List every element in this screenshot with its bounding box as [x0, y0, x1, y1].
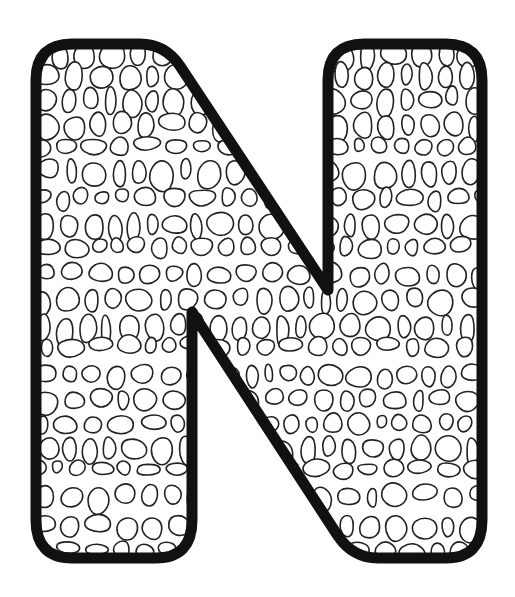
scale-cell	[118, 267, 134, 283]
scale-cell	[41, 339, 52, 356]
scale-cell	[89, 337, 113, 350]
scale-cell	[333, 463, 353, 479]
scale-cell	[283, 189, 305, 204]
scale-cell	[65, 392, 85, 408]
scale-cell	[448, 188, 469, 203]
scale-cell	[62, 437, 76, 461]
scale-cell	[134, 187, 155, 205]
scale-cell	[353, 112, 371, 138]
scale-cell	[458, 416, 472, 432]
scale-cell	[396, 189, 423, 205]
scale-cell	[488, 514, 509, 534]
scale-cell	[377, 63, 393, 88]
scale-cell	[296, 316, 306, 338]
scale-cell	[405, 239, 417, 256]
scale-cell	[151, 438, 172, 465]
scale-cell	[289, 390, 307, 406]
scale-cell	[63, 366, 77, 382]
scale-cell	[395, 268, 419, 287]
scale-cell	[279, 338, 303, 351]
scale-cell	[137, 464, 160, 475]
scale-cell	[266, 388, 284, 404]
crocodile-scale-pattern	[32, 40, 514, 561]
scale-cell	[385, 215, 409, 234]
scale-cell	[371, 137, 386, 153]
scale-cell	[82, 366, 100, 382]
scale-cell	[189, 112, 207, 132]
scale-cell	[263, 263, 283, 282]
scale-cell	[65, 240, 89, 258]
scale-cell	[205, 290, 227, 309]
scale-cell	[271, 135, 294, 150]
scale-cell	[172, 237, 186, 254]
scale-cell	[306, 417, 317, 432]
scale-cell	[164, 188, 185, 206]
scale-cell	[340, 236, 353, 256]
scale-cell	[422, 367, 435, 387]
scale-cell	[355, 138, 365, 151]
scale-cell	[460, 62, 475, 89]
scale-cell	[189, 190, 215, 206]
scale-cell	[298, 41, 322, 71]
scale-cell	[360, 516, 380, 537]
scale-cell	[274, 488, 286, 511]
scale-cell	[408, 460, 431, 473]
scale-cell	[280, 286, 299, 311]
scale-cell	[447, 264, 466, 287]
scale-cell	[171, 415, 184, 432]
scale-cell	[407, 288, 423, 306]
scale-cell	[207, 416, 231, 431]
scale-cell	[246, 365, 258, 388]
scale-cell	[251, 459, 271, 475]
scale-cell	[284, 415, 299, 434]
scale-cell	[162, 216, 187, 233]
scale-cell	[163, 391, 185, 409]
scale-cell	[486, 114, 508, 141]
scale-cell	[239, 215, 253, 235]
scale-cell	[342, 439, 356, 463]
scale-cell	[428, 191, 441, 212]
scale-cell	[246, 439, 266, 461]
scale-cell	[491, 213, 512, 235]
scale-cell	[246, 63, 267, 86]
scale-cell	[414, 214, 437, 234]
scale-cell	[413, 484, 438, 500]
scale-cell	[62, 89, 76, 112]
scale-cell	[90, 66, 113, 88]
scale-cell	[303, 459, 330, 477]
scale-cell	[421, 162, 436, 187]
scale-cell	[191, 238, 212, 255]
scale-cell	[450, 236, 471, 252]
scale-cell	[163, 89, 184, 116]
scale-cell	[333, 339, 347, 356]
scale-cell	[358, 464, 377, 474]
scale-cell	[57, 140, 77, 154]
scale-cell	[358, 239, 381, 258]
scale-cell	[257, 340, 274, 356]
scale-cell	[378, 116, 394, 140]
scale-cell	[290, 544, 311, 560]
scale-cell	[134, 389, 157, 411]
scale-cell	[458, 137, 475, 154]
scale-cell	[92, 462, 114, 474]
scale-cell	[265, 364, 272, 381]
scale-cell	[159, 113, 185, 130]
scale-cell	[117, 461, 130, 475]
scale-cell	[288, 88, 298, 115]
scale-cell	[387, 239, 399, 254]
scale-cell	[262, 516, 275, 535]
scale-cell	[82, 163, 105, 186]
scale-cell	[419, 92, 442, 108]
scale-cell	[275, 62, 288, 89]
scale-cell	[438, 66, 452, 87]
scale-cell	[198, 161, 221, 189]
scale-cell	[402, 115, 414, 135]
scale-cell	[457, 337, 473, 357]
scale-cell	[380, 187, 392, 207]
scale-cell	[398, 316, 411, 338]
scale-cell	[377, 89, 394, 117]
scale-cell	[351, 91, 372, 109]
scale-cell	[111, 238, 123, 253]
scale-cell	[446, 86, 458, 105]
scale-cell	[241, 189, 257, 207]
